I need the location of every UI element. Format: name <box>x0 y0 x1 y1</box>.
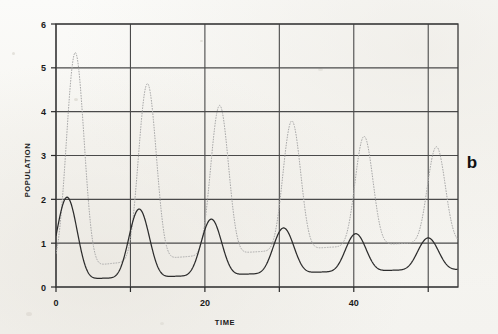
y-tick-label: 0 <box>41 283 46 293</box>
y-axis-title: POPULATION <box>23 143 32 198</box>
panel-label: b <box>467 153 477 172</box>
y-tick-label: 6 <box>41 20 46 30</box>
series-line-prey <box>56 197 458 278</box>
x-tick-label: 40 <box>349 298 359 308</box>
tick-marks <box>51 24 428 292</box>
y-tick-label: 2 <box>41 195 46 205</box>
x-tick-label: 20 <box>200 298 210 308</box>
population-time-chart: 0123456 02040 TIME POPULATION b <box>0 0 498 334</box>
y-tick-label: 1 <box>41 239 46 249</box>
x-axis-title: TIME <box>215 318 235 327</box>
y-tick-label: 5 <box>41 63 46 73</box>
series-line-predator <box>56 53 458 265</box>
y-tick-label: 4 <box>41 107 46 117</box>
data-series <box>56 53 458 279</box>
grid <box>56 24 458 287</box>
figure-canvas: 0123456 02040 TIME POPULATION b <box>0 0 498 334</box>
y-tick-labels: 0123456 <box>41 20 46 293</box>
y-tick-label: 3 <box>41 151 46 161</box>
x-tick-labels: 02040 <box>53 298 358 308</box>
x-tick-label: 0 <box>53 298 58 308</box>
